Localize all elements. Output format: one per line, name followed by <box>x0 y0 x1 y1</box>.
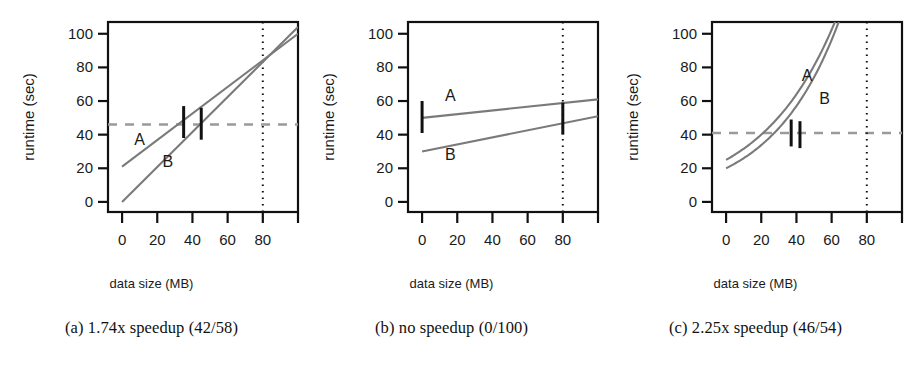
plot-a: 020406080100020406080runtime (sec)AB <box>0 0 303 300</box>
series-label-B: B <box>162 153 173 170</box>
y-axis-title: runtime (sec) <box>20 73 37 161</box>
y-tick-label: 100 <box>368 25 393 42</box>
x-axis-title-a: data size (MB) <box>0 276 303 291</box>
panel-a: 020406080100020406080runtime (sec)AB dat… <box>0 0 303 368</box>
series-label-A: A <box>134 131 145 148</box>
x-tick-label: 0 <box>722 231 730 248</box>
x-tick-label: 20 <box>449 231 466 248</box>
y-tick-label: 0 <box>689 193 697 210</box>
caption-a: (a) 1.74x speedup (42/58) <box>0 318 303 338</box>
x-tick-label: 0 <box>418 231 426 248</box>
x-tick-label: 60 <box>219 231 236 248</box>
x-tick-label: 80 <box>254 231 271 248</box>
y-tick-label: 0 <box>85 193 93 210</box>
caption-b: (b) no speedup (0/100) <box>300 318 603 338</box>
panel-b: 020406080100020406080runtime (sec)AB dat… <box>300 0 603 368</box>
y-tick-label: 60 <box>376 92 393 109</box>
x-axis-title-c: data size (MB) <box>604 276 907 291</box>
y-tick-label: 60 <box>76 92 93 109</box>
y-tick-label: 40 <box>76 126 93 143</box>
y-tick-label: 100 <box>672 25 697 42</box>
x-tick-label: 0 <box>118 231 126 248</box>
x-tick-label: 80 <box>554 231 571 248</box>
y-tick-label: 100 <box>68 25 93 42</box>
x-tick-label: 60 <box>823 231 840 248</box>
series-label-A: A <box>445 87 456 104</box>
x-axis-title-b: data size (MB) <box>300 276 603 291</box>
plot-c: 020406080100020406080runtime (sec)AB <box>604 0 907 300</box>
y-tick-label: 40 <box>376 126 393 143</box>
plot-frame <box>712 22 902 212</box>
x-tick-label: 40 <box>484 231 501 248</box>
y-tick-label: 20 <box>76 159 93 176</box>
plot-b: 020406080100020406080runtime (sec)AB <box>300 0 603 300</box>
y-tick-label: 80 <box>76 58 93 75</box>
y-tick-label: 60 <box>680 92 697 109</box>
series-label-B: B <box>445 146 456 163</box>
x-tick-label: 80 <box>858 231 875 248</box>
plot-frame <box>108 22 298 212</box>
series-label-B: B <box>819 90 830 107</box>
y-tick-label: 20 <box>376 159 393 176</box>
y-tick-label: 20 <box>680 159 697 176</box>
y-tick-label: 80 <box>680 58 697 75</box>
x-tick-label: 20 <box>149 231 166 248</box>
x-tick-label: 20 <box>753 231 770 248</box>
y-tick-label: 0 <box>385 193 393 210</box>
figure-three-panel-runtime: 020406080100020406080runtime (sec)AB dat… <box>0 0 911 368</box>
y-axis-title: runtime (sec) <box>320 73 337 161</box>
x-tick-label: 60 <box>519 231 536 248</box>
x-tick-label: 40 <box>788 231 805 248</box>
x-tick-label: 40 <box>184 231 201 248</box>
panel-c: 020406080100020406080runtime (sec)AB dat… <box>604 0 907 368</box>
y-tick-label: 80 <box>376 58 393 75</box>
series-line-B <box>122 27 298 202</box>
y-tick-label: 40 <box>680 126 697 143</box>
y-axis-title: runtime (sec) <box>624 73 641 161</box>
caption-c: (c) 2.25x speedup (46/54) <box>604 318 907 338</box>
series-label-A: A <box>802 67 813 84</box>
